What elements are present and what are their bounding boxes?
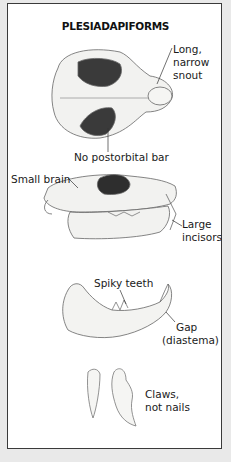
label-incisors: Large incisors bbox=[182, 218, 222, 244]
label-snout: Long, narrow snout bbox=[173, 43, 209, 82]
label-snout-line-2: narrow bbox=[173, 56, 209, 69]
label-snout-line-3: snout bbox=[173, 69, 209, 82]
skull-top-view-illustration bbox=[52, 50, 173, 139]
lower-jaw-illustration bbox=[63, 284, 172, 338]
label-claws-line-1: Claws, bbox=[145, 388, 190, 401]
claw-bones-illustration bbox=[87, 369, 136, 426]
label-postorbital: No postorbital bar bbox=[74, 151, 169, 164]
label-brain: Small brain bbox=[11, 173, 71, 186]
label-claws-line-2: not nails bbox=[145, 401, 190, 414]
label-gap-line-1: Gap bbox=[162, 321, 219, 334]
label-gap: Gap (diastema) bbox=[162, 321, 219, 347]
label-gap-line-2: (diastema) bbox=[162, 334, 219, 347]
label-teeth: Spiky teeth bbox=[94, 277, 153, 290]
label-incisors-line-1: Large bbox=[182, 218, 222, 231]
label-incisors-line-2: incisors bbox=[182, 231, 222, 244]
label-claws: Claws, not nails bbox=[145, 388, 190, 414]
label-snout-line-1: Long, bbox=[173, 43, 209, 56]
